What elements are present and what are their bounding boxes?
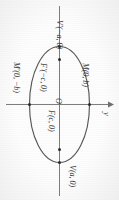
point-f-prime-dot	[58, 58, 61, 61]
label-f: F(c, 0)	[47, 109, 56, 132]
point-m-prime-dot	[28, 103, 31, 106]
ellipse-figure: V'(−a, 0) V(a, 0) M(0, b) M'(0, −b) F(c,…	[0, 0, 119, 200]
label-y-axis: y	[102, 111, 112, 116]
label-v-prime: V'(−a, 0)	[55, 20, 64, 49]
label-m-prime: M'(0, −b)	[12, 61, 21, 93]
label-f-prime: F'(−c, 0)	[39, 62, 48, 92]
y-axis-arrow-icon	[108, 102, 114, 108]
point-v-dot	[58, 161, 61, 164]
label-origin: O	[54, 98, 63, 104]
label-v: V(a, 0)	[68, 165, 77, 187]
point-f-dot	[58, 148, 61, 151]
point-m-dot	[88, 103, 91, 106]
ellipse-diagram-canvas: V'(−a, 0) V(a, 0) M(0, b) M'(0, −b) F(c,…	[0, 0, 119, 200]
label-m: M(0, b)	[81, 62, 90, 87]
